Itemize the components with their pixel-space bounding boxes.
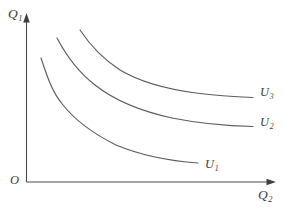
curve-label-u2: U2: [260, 116, 273, 129]
curve-label-u3-subscript: 3: [270, 92, 274, 101]
curve-u2: [57, 38, 253, 127]
origin-label: O: [10, 174, 19, 187]
curve-label-u1: U1: [205, 158, 218, 171]
figure-canvas: [0, 0, 285, 208]
curve-label-u2-subscript: 2: [270, 122, 274, 131]
curve-u3: [80, 30, 253, 98]
y-axis-arrowhead: [23, 13, 30, 23]
indifference-curve-figure: Q1 Q2 O U3 U2 U1: [0, 0, 285, 208]
curves-group: [41, 30, 253, 163]
curve-label-u3: U3: [260, 86, 273, 99]
x-axis-label-base: Q: [258, 187, 268, 202]
x-axis-label-subscript: 2: [268, 195, 272, 204]
axes-group: [23, 13, 276, 185]
curve-label-u3-base: U: [260, 85, 269, 99]
curve-label-u2-base: U: [260, 115, 269, 129]
y-axis-label-subscript: 1: [18, 14, 22, 23]
curve-u1: [41, 58, 198, 163]
x-axis-label: Q2: [258, 188, 272, 202]
x-axis-arrowhead: [267, 179, 277, 186]
y-axis-label: Q1: [8, 7, 22, 21]
y-axis-label-base: Q: [8, 6, 18, 21]
curve-label-u1-base: U: [205, 157, 214, 171]
curve-label-u1-subscript: 1: [215, 164, 219, 173]
